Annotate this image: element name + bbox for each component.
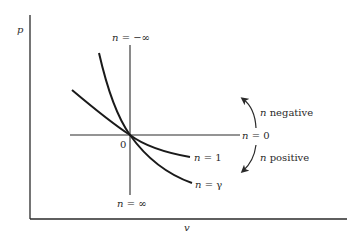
label-n-positive: n positive xyxy=(260,152,309,163)
label-n-0: n = 0 xyxy=(242,130,270,141)
curve-n-gamma xyxy=(99,53,192,183)
curve-n-1 xyxy=(72,90,190,157)
y-axis-label: p xyxy=(17,24,24,35)
label-n-inf: n = ∞ xyxy=(117,198,147,209)
arrow-n-positive-icon xyxy=(243,145,256,171)
arrow-n-negative-icon xyxy=(243,99,256,128)
label-n-gamma: n = γ xyxy=(195,179,222,190)
polytropic-process-diagram: p v n = −∞ n = ∞ n = 0 n = 1 n = γ 0 n n… xyxy=(0,0,361,239)
origin-label: 0 xyxy=(120,139,126,150)
x-axis-label: v xyxy=(184,222,190,233)
label-n-1: n = 1 xyxy=(194,152,222,163)
label-n-negative: n negative xyxy=(260,107,313,118)
label-n-neg-inf: n = −∞ xyxy=(112,32,150,43)
